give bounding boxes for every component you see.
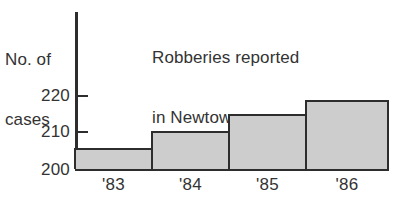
bar-chart-figure: Robberies reported in Newtown No. of cas… bbox=[0, 0, 393, 210]
bar-86 bbox=[305, 100, 389, 169]
chart-title-line-1: Robberies reported bbox=[152, 48, 299, 68]
x-tick-label-83: '83 bbox=[74, 176, 153, 194]
y-tick-label-210: 210 bbox=[0, 123, 70, 140]
bar-85 bbox=[228, 114, 307, 169]
y-tick-mark-210 bbox=[78, 131, 88, 133]
y-axis-label-line-1: No. of bbox=[5, 50, 51, 70]
bar-84 bbox=[151, 131, 230, 169]
y-tick-label-200: 200 bbox=[0, 161, 70, 178]
x-tick-label-86: '86 bbox=[305, 176, 389, 194]
x-tick-label-85: '85 bbox=[228, 176, 307, 194]
y-tick-mark-220 bbox=[78, 95, 88, 97]
bar-83 bbox=[74, 148, 153, 169]
y-tick-label-220: 220 bbox=[0, 87, 70, 104]
x-tick-label-84: '84 bbox=[151, 176, 230, 194]
